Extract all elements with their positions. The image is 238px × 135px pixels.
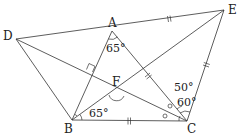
angle-arc-C-lower: [180, 111, 190, 113]
label-A: A: [107, 16, 117, 30]
label-F: F: [112, 75, 120, 89]
label-E: E: [228, 3, 237, 17]
label-B: B: [64, 122, 73, 135]
circle-mark-2: [163, 114, 167, 118]
angle-label-A: 65°: [106, 42, 126, 55]
angle-arc-C-inner: [179, 116, 180, 121]
label-D: D: [3, 29, 13, 43]
angle-label-C-upper: 50°: [174, 81, 194, 94]
angle-label-C-lower: 60°: [177, 96, 197, 109]
segment-DE: [16, 10, 224, 39]
tick-AC: [145, 73, 152, 79]
tick-BC: [128, 118, 131, 125]
segment-BC: [72, 120, 187, 121]
tick-AE: [168, 16, 172, 22]
angle-label-B: 65°: [89, 107, 109, 120]
angle-arc-B: [80, 115, 82, 121]
label-C: C: [187, 122, 196, 135]
angle-arc-B-small: [75, 115, 77, 117]
angle-arc-F: [109, 95, 124, 101]
tick-CE: [203, 63, 210, 68]
segment-BE: [72, 10, 224, 120]
segment-DB: [16, 39, 72, 120]
geometry-diagram: A B C D E F 65° 65° 50° 60°: [0, 0, 238, 135]
angle-arc-A: [109, 37, 118, 39]
circle-mark-1: [168, 104, 172, 108]
